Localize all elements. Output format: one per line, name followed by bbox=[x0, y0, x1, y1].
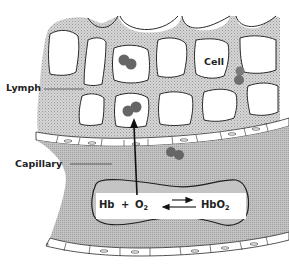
eq-plus: + bbox=[121, 199, 129, 210]
eq-hb: Hb bbox=[99, 199, 115, 210]
hemoglobin-equation: Hb + O2 HbO2 bbox=[95, 194, 245, 218]
label-cell: Cell bbox=[204, 56, 224, 67]
diagram-canvas: e Lymph Capillary Cell Hb + O2 bbox=[0, 0, 289, 267]
label-capillary: Capillary bbox=[15, 158, 62, 169]
eq-hbo2: HbO2 bbox=[201, 199, 230, 212]
eq-o2: O2 bbox=[135, 199, 148, 212]
label-lymph: Lymph bbox=[6, 82, 41, 93]
diagram-illustration: e bbox=[0, 0, 289, 267]
